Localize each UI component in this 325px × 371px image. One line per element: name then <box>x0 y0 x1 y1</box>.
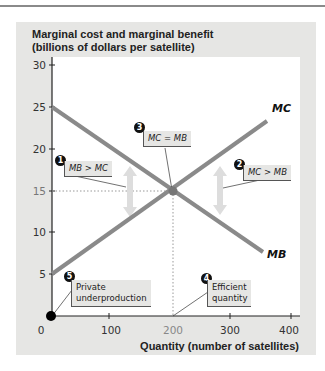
callout-private-underproduction: Private underproduction <box>71 280 151 307</box>
callout-mb-gt-mc: MB > MC <box>64 161 112 177</box>
svg-text:30: 30 <box>33 59 46 71</box>
callout-private-line2: underproduction <box>76 293 147 304</box>
svg-text:20: 20 <box>33 143 46 155</box>
svg-text:15: 15 <box>33 185 46 197</box>
svg-text:200: 200 <box>163 324 183 336</box>
callout-efficient-quantity: Efficient quantity <box>207 280 251 307</box>
mb-curve <box>52 107 263 252</box>
callout-private-line1: Private <box>76 282 147 293</box>
svg-text:0: 0 <box>38 324 45 336</box>
callout-mc-eq-mb: MC = MB <box>143 131 191 147</box>
svg-text:400: 400 <box>279 324 299 336</box>
svg-text:300: 300 <box>220 324 240 336</box>
mb-label: MB <box>267 248 286 261</box>
equilibrium-point <box>169 187 178 196</box>
svg-text:10: 10 <box>33 226 46 238</box>
mc-label: MC <box>272 102 291 115</box>
svg-text:5: 5 <box>39 268 46 280</box>
private-equilibrium-point <box>46 311 56 321</box>
callout-mc-gt-mb: MC > MB <box>243 165 291 181</box>
callout-efficient-line2: quantity <box>212 293 247 304</box>
double-arrow-right-icon <box>213 166 227 215</box>
svg-text:25: 25 <box>33 101 46 113</box>
callout-efficient-line1: Efficient <box>212 282 247 293</box>
svg-text:100: 100 <box>101 324 121 336</box>
chart-svg: 30 25 20 15 10 5 0 100 200 300 400 <box>0 0 325 371</box>
double-arrow-left-icon <box>123 166 137 217</box>
